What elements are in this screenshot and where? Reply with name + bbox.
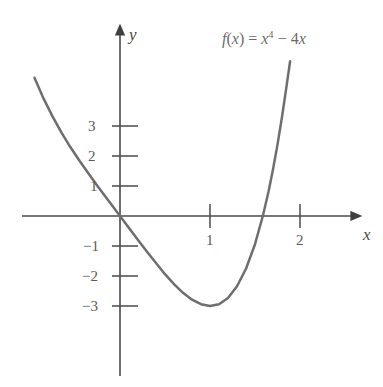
y-tick-label-neg2: −2 — [82, 269, 98, 284]
y-tick-label-neg3: −3 — [82, 299, 98, 314]
y-tick-label-3: 3 — [88, 119, 96, 134]
function-equation-label: f(x) = x4 − 4x — [222, 31, 306, 47]
equation-minus-term: − 4 — [274, 30, 299, 47]
equation-tail-var: x — [299, 30, 306, 47]
x-tick-label-2: 2 — [296, 233, 304, 248]
equation-arg: x — [232, 30, 239, 47]
equation-equals: = — [244, 30, 261, 47]
y-tick-label-2: 2 — [88, 149, 96, 164]
y-axis-label: y — [129, 26, 137, 43]
y-tick-label-neg1: −1 — [83, 239, 99, 254]
function-graph-figure: 3 2 1 −1 −2 −3 1 2 x y f(x) = x4 − 4x — [0, 0, 383, 387]
y-tick-label-1: 1 — [90, 179, 98, 194]
x-tick-label-1: 1 — [206, 233, 214, 248]
function-curve — [35, 61, 291, 306]
x-axis-label: x — [363, 226, 371, 243]
plot-canvas — [0, 0, 383, 387]
